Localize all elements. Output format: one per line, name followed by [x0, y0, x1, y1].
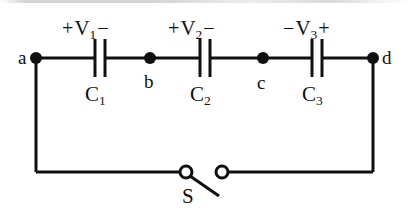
capacitor-symbol-c3: C: [302, 82, 316, 106]
voltage-symbol-v2: V: [180, 16, 195, 40]
capacitor-subscript-c3: 3: [316, 93, 323, 108]
voltage-symbol-v1: V: [74, 16, 89, 40]
polarity-right-v3: +: [318, 17, 329, 39]
switch-terminal-right[interactable]: [216, 166, 228, 178]
node-dot-a: [30, 52, 42, 64]
switch-lever[interactable]: [190, 176, 219, 196]
polarity-left-v2: +: [168, 17, 179, 39]
node-label-d: d: [382, 48, 392, 67]
voltage-label-v2: +V2−: [168, 18, 215, 42]
node-dot-c: [257, 52, 269, 64]
circuit-diagram: a b c d +V1− +V2− −V3+ C1 C2 C3 S: [0, 0, 408, 215]
voltage-label-v3: −V3+: [283, 18, 330, 42]
capacitor-label-c2: C2: [190, 84, 211, 108]
node-label-a: a: [18, 48, 26, 67]
polarity-left-v1: +: [62, 17, 73, 39]
polarity-right-v1: −: [97, 17, 108, 39]
voltage-symbol-v3: V: [295, 16, 310, 40]
node-dot-b: [144, 52, 156, 64]
voltage-label-v1: +V1−: [62, 18, 109, 42]
node-label-b: b: [144, 72, 154, 91]
switch-terminal-left[interactable]: [180, 166, 192, 178]
capacitor-subscript-c1: 1: [99, 93, 106, 108]
polarity-left-v3: −: [283, 17, 294, 39]
switch-label: S: [182, 186, 194, 207]
polarity-right-v2: −: [203, 17, 214, 39]
node-dot-d: [367, 52, 379, 64]
capacitor-label-c1: C1: [85, 84, 106, 108]
capacitor-subscript-c2: 2: [204, 93, 211, 108]
voltage-subscript-v1: 1: [90, 27, 97, 42]
voltage-subscript-v3: 3: [311, 27, 318, 42]
capacitor-symbol-c2: C: [190, 82, 204, 106]
capacitor-label-c3: C3: [302, 84, 323, 108]
capacitor-symbol-c1: C: [85, 82, 99, 106]
voltage-subscript-v2: 2: [196, 27, 203, 42]
node-label-c: c: [257, 73, 265, 92]
